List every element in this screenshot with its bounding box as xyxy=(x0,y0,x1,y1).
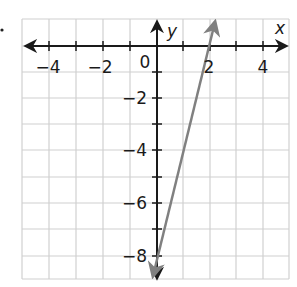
x-tick-label-2: 2 xyxy=(204,57,215,77)
y-tick-label-neg6: −6 xyxy=(122,193,147,213)
y-tick-label-neg4: −4 xyxy=(122,140,147,160)
y-tick-label-neg2: −2 xyxy=(122,88,147,108)
x-tick-label-4: 4 xyxy=(258,57,269,77)
y-axis-label: y xyxy=(166,21,178,41)
x-axis-label: x xyxy=(274,18,286,38)
bullet-dot xyxy=(0,28,3,31)
coordinate-graph: −4 −2 0 2 4 −2 −4 −6 −8 y x xyxy=(0,0,297,287)
x-tick-label-neg2: −2 xyxy=(87,57,112,77)
grid xyxy=(22,19,289,279)
y-tick-label-neg8: −8 xyxy=(122,246,147,266)
origin-label: 0 xyxy=(140,52,151,72)
x-tick-label-neg4: −4 xyxy=(35,57,60,77)
